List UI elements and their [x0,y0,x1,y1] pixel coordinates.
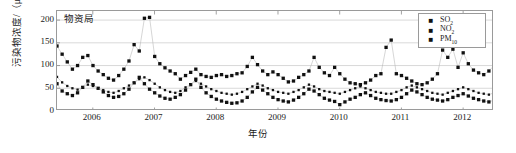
x-tick-label: 2008 [206,112,224,122]
y-tick-label: 150 [24,37,54,46]
y-tick-label: 100 [24,60,54,69]
y-tick-label: 50 [24,83,54,92]
x-tick-label: 2007 [145,112,163,122]
x-axis-label: 年份 [0,126,516,140]
station-title: 物资局 [64,13,94,24]
x-tick-label: 2009 [268,112,286,122]
y-axis-label: 污染物浓度/（μg/m3） [9,0,23,71]
x-tick-label: 2006 [83,112,101,122]
legend: ■ SO2 ■ NO2 ■ PM10 [418,13,486,48]
square-marker-icon: ■ [422,27,440,35]
legend-item-pm10: ■ PM10 [422,36,482,45]
chart-figure: 污染物浓度/（μg/m3） 050100150200 物资局 ■ SO2 ■ N… [0,0,516,153]
legend-label-pm10: PM10 [440,34,457,47]
square-marker-icon: ■ [422,17,440,25]
square-marker-icon: ■ [422,36,440,44]
x-tick-label: 2011 [392,112,410,122]
y-tick-label: 200 [24,15,54,24]
x-axis-ticks: 2006200720082009201020112012 [56,112,493,126]
x-tick-label: 2010 [330,112,348,122]
x-tick-label: 2012 [453,112,471,122]
y-tick-label: 0 [24,106,54,115]
